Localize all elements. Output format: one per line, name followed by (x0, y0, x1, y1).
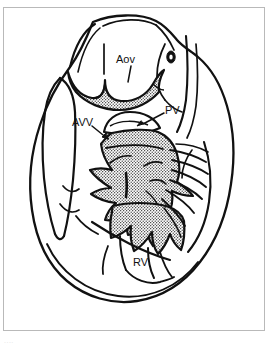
label-pv: PV (165, 104, 180, 116)
heart-anatomy-diagram: Aov PV AVV RV (0, 0, 269, 350)
label-aov: Aov (116, 53, 135, 65)
caption-fragment: .... (4, 337, 50, 343)
label-rv: RV (133, 256, 149, 268)
label-avv: AVV (72, 116, 94, 128)
coronary-ostium-icon (167, 51, 175, 63)
figure-root: Aov PV AVV RV .... (0, 0, 269, 350)
